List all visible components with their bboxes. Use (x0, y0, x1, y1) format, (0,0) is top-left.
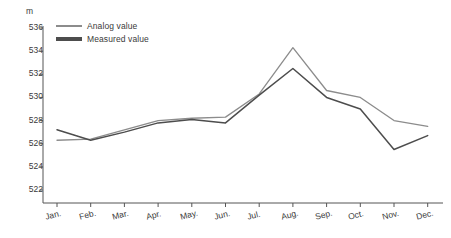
x-axis-tick-label: Mar. (111, 208, 129, 222)
x-axis-tick-label: Aug. (280, 208, 299, 222)
legend-item[interactable]: Measured value (56, 33, 149, 45)
x-axis-tick-label: Jul. (246, 209, 261, 222)
legend-item[interactable]: Analog value (56, 20, 149, 32)
x-axis-tick-label: Feb. (78, 208, 97, 222)
x-axis-tick-label: Nov. (381, 208, 400, 222)
x-axis-tick-label: Dec. (415, 208, 434, 222)
x-axis-tick-label: Sep. (314, 208, 333, 222)
line-chart: m 536534532530528526524522 Jan.Feb.Mar.A… (0, 0, 451, 238)
x-axis-tick-label: May. (179, 208, 199, 222)
chart-legend: Analog valueMeasured value (56, 20, 149, 46)
legend-swatch-line-icon (56, 37, 82, 40)
legend-swatch-line-icon (56, 25, 82, 28)
legend-label: Analog value (87, 21, 137, 31)
x-axis-tick-label: Apr. (145, 208, 162, 221)
x-axis-tick-label: Jan. (44, 208, 62, 222)
x-axis-tick-label: Oct. (347, 208, 365, 221)
x-axis-tick-label: Jun. (213, 208, 231, 222)
legend-label: Measured value (87, 34, 149, 44)
